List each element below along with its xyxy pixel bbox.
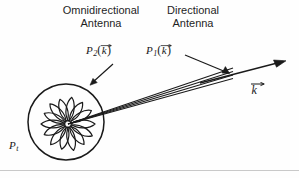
leader-arrow-p2-shaft [93, 64, 113, 82]
leader-arrow-p1 [185, 55, 230, 74]
leader-arrow-p1-shaft [185, 55, 226, 72]
leader-arrow-p2 [90, 64, 113, 85]
wave-vector-arrow [200, 60, 286, 83]
antenna-radiation-diagram: Omnidirectional Antenna Directional Ante… [0, 0, 299, 178]
diagram-vector-graphics [0, 0, 299, 178]
wave-vector-arrowhead [274, 60, 287, 67]
wave-vector-shaft [200, 62, 283, 84]
beam-line-4 [68, 79, 233, 125]
